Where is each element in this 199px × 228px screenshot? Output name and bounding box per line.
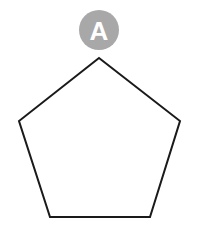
badge-label: A [90,16,109,46]
label-badge-a: A [79,10,119,50]
pentagon-diagram: A [0,0,199,228]
figure-canvas: A [0,0,199,228]
pentagon-shape [19,58,180,217]
